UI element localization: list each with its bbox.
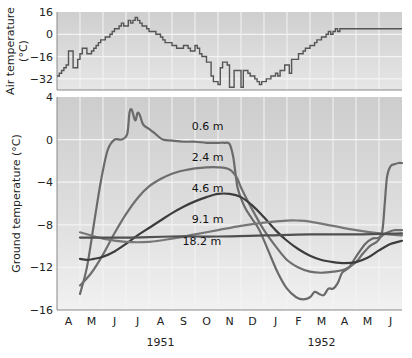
y-tick-label: 0 bbox=[46, 28, 53, 41]
curve-label: 9.1 m bbox=[192, 213, 224, 226]
curve-label: 18.2 m bbox=[183, 235, 222, 248]
y-tick-label: −8 bbox=[37, 219, 53, 232]
x-tick-label: D bbox=[248, 315, 256, 328]
y-tick-label: 4 bbox=[46, 91, 53, 104]
y-tick-label: −16 bbox=[30, 304, 53, 317]
x-tick-label: M bbox=[363, 315, 373, 328]
curve-label: 0.6 m bbox=[192, 120, 224, 133]
air-temperature-axis-label: Air temperature(°C) bbox=[4, 7, 30, 95]
year-label: 1952 bbox=[308, 336, 336, 349]
x-tick-label: J bbox=[273, 315, 277, 328]
y-tick-label: 16 bbox=[39, 6, 53, 19]
y-tick-label: −12 bbox=[30, 261, 53, 274]
x-tick-label: F bbox=[295, 315, 301, 328]
x-tick-label: N bbox=[225, 315, 233, 328]
curve-label: 4.6 m bbox=[192, 182, 224, 195]
y-tick-label: −4 bbox=[37, 176, 53, 189]
x-tick-label: A bbox=[157, 315, 165, 328]
x-tick-label: M bbox=[87, 315, 97, 328]
x-tick-label: M bbox=[317, 315, 327, 328]
x-tick-label: A bbox=[65, 315, 73, 328]
x-tick-label: J bbox=[388, 315, 392, 328]
y-tick-label: −32 bbox=[30, 73, 53, 86]
y-tick-label: 0 bbox=[46, 134, 53, 147]
x-tick-label: J bbox=[135, 315, 139, 328]
axis-label-line: Air temperature bbox=[4, 7, 17, 95]
plot-background bbox=[57, 97, 402, 310]
ground-air-temperature-chart: 160−16−32Air temperature(°C) 40−4−8−12−1… bbox=[0, 0, 412, 358]
x-tick-label: A bbox=[341, 315, 349, 328]
year-label: 1951 bbox=[147, 336, 175, 349]
ground-temperature-panel: 40−4−8−12−160.6 m2.4 m4.6 m9.1 m18.2 mAM… bbox=[10, 91, 402, 349]
x-tick-label: J bbox=[112, 315, 116, 328]
ground-temperature-axis-label: Ground temperature (°C) bbox=[10, 134, 23, 272]
axis-label-line: (°C) bbox=[17, 40, 30, 62]
x-tick-label: S bbox=[180, 315, 187, 328]
curve-label: 2.4 m bbox=[192, 151, 224, 164]
air-temperature-panel: 160−16−32Air temperature(°C) bbox=[4, 6, 402, 95]
y-tick-label: −16 bbox=[30, 51, 53, 64]
x-tick-label: O bbox=[202, 315, 211, 328]
